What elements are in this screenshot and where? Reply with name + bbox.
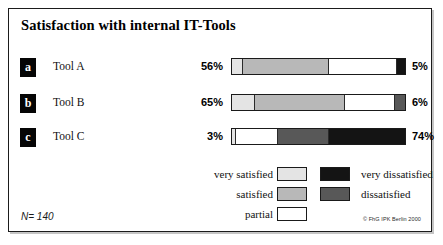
row-value-left-tool-a: 56%	[159, 60, 223, 72]
legend-label-very-satisfied: very satisfied	[214, 168, 273, 180]
legend-label-satisfied: satisfied	[236, 188, 273, 200]
bar-track-tool-c	[231, 128, 406, 145]
bar-segment-very-satisfied	[232, 59, 242, 74]
row-value-left-tool-b: 65%	[159, 96, 223, 108]
row-value-left-tool-c: 3%	[159, 130, 223, 142]
bar-track-tool-a	[231, 58, 406, 75]
legend-label-partial: partial	[245, 208, 273, 220]
legend-swatch-partial	[277, 207, 307, 221]
legend-swatch-very-satisfied	[277, 167, 307, 181]
row-value-right-tool-b: 6%	[405, 96, 443, 108]
legend-row: satisfied dissatisfied	[185, 185, 425, 205]
row-label-tool-b: Tool B	[53, 96, 84, 108]
bar-segment-partial	[328, 59, 395, 74]
table-row: a Tool A 56% 5%	[9, 56, 431, 80]
legend-swatch-satisfied	[277, 187, 307, 201]
bar-segment-dissatisfied	[277, 129, 327, 144]
legend-swatch-very-dissatisfied	[320, 167, 350, 181]
page-title: Satisfaction with internal IT-Tools	[21, 17, 236, 34]
row-badge-b: b	[20, 94, 36, 113]
bar-segment-partial	[235, 129, 277, 144]
figure-card: Satisfaction with internal IT-Tools a To…	[8, 8, 432, 232]
row-label-tool-a: Tool A	[53, 60, 84, 72]
row-label-tool-c: Tool C	[53, 130, 84, 142]
legend-label-dissatisfied: dissatisfied	[361, 188, 411, 200]
table-row: b Tool B 65% 6%	[9, 92, 431, 116]
bar-segment-partial	[344, 95, 394, 110]
row-badge-a: a	[20, 58, 36, 77]
legend-row: partial	[185, 205, 425, 225]
bar-segment-satisfied	[254, 95, 343, 110]
bar-segment-very-dissatisfied	[328, 129, 406, 144]
bar-segment-very-dissatisfied	[396, 59, 406, 74]
copyright-label: © FhG IPK Berlin 2000	[363, 216, 421, 222]
legend-label-very-dissatisfied: very dissatisfied	[361, 168, 433, 180]
legend-row: very satisfied very dissatisfied	[185, 165, 425, 185]
row-value-right-tool-a: 5%	[405, 60, 443, 72]
bar-track-tool-b	[231, 94, 406, 111]
sample-size-label: N= 140	[21, 211, 54, 222]
bar-segment-very-satisfied	[232, 95, 254, 110]
bar-segment-dissatisfied	[394, 95, 405, 110]
row-badge-c: c	[20, 128, 36, 147]
legend-swatch-dissatisfied	[320, 187, 350, 201]
row-value-right-tool-c: 74%	[405, 130, 443, 142]
table-row: c Tool C 3% 74%	[9, 126, 431, 150]
bar-segment-satisfied	[242, 59, 328, 74]
